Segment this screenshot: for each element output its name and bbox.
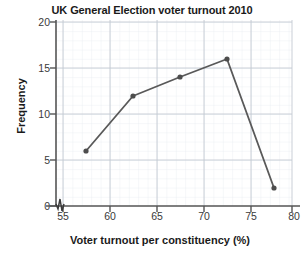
minor-gridlines bbox=[56, 20, 292, 206]
chart-container: UK General Election voter turnout 2010 F… bbox=[0, 0, 304, 256]
y-axis-ticks bbox=[50, 22, 56, 206]
data-point-1 bbox=[83, 148, 88, 153]
data-point-2 bbox=[130, 93, 135, 98]
data-point-4 bbox=[224, 56, 229, 61]
plot-area bbox=[0, 0, 304, 256]
data-point-5 bbox=[271, 185, 276, 190]
x-axis-ticks bbox=[63, 206, 292, 212]
data-point-3 bbox=[177, 74, 182, 79]
